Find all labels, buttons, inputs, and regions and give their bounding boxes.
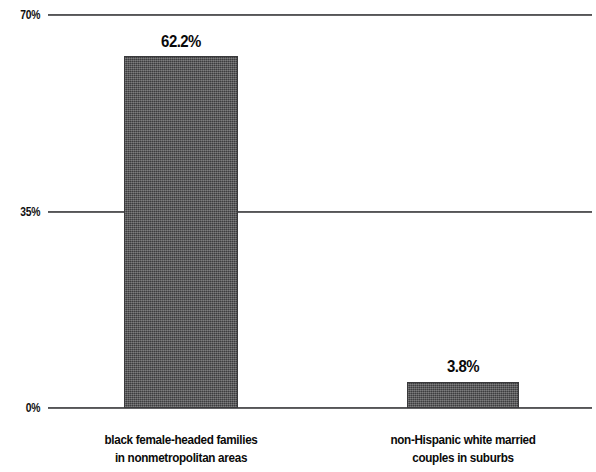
y-axis-tick-70: 70% — [6, 9, 40, 21]
category-label-2-line-2: couples in suburbs — [355, 449, 571, 467]
category-label-2: non-Hispanic white married couples in su… — [355, 431, 571, 467]
bar-value-label-2: 3.8% — [414, 357, 513, 376]
category-label-1: black female-headed families in nonmetro… — [73, 431, 289, 467]
category-label-1-line-1: black female-headed families — [73, 431, 289, 449]
category-label-1-line-2: in nonmetropolitan areas — [73, 449, 289, 467]
y-axis-tick-35: 35% — [6, 206, 40, 218]
bar-chart: 70% 35% 0% 62.2% 3.8% black female-heade… — [0, 0, 596, 472]
bar-value-label-1: 62.2% — [131, 32, 231, 51]
gridline-70 — [48, 14, 592, 16]
bar-black-female-headed-families — [124, 56, 238, 408]
category-label-2-line-1: non-Hispanic white married — [355, 431, 571, 449]
bar-non-hispanic-white-married-couples — [407, 382, 519, 408]
y-axis-tick-0: 0% — [6, 402, 40, 414]
